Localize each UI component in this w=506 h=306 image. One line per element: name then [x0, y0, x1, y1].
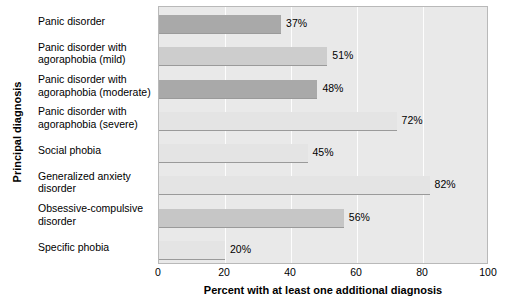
- bar-baseline-edge: [159, 98, 317, 99]
- x-axis-title: Percent with at least one additional dia…: [158, 284, 488, 296]
- bar-value-label: 82%: [435, 178, 456, 190]
- plot-area: 37%51%48%72%45%82%56%20%: [158, 6, 488, 264]
- x-axis-tick-labels: 020406080100: [158, 266, 488, 282]
- bar-baseline-edge: [159, 259, 225, 260]
- bar-value-label: 56%: [349, 211, 370, 223]
- bar-baseline-edge: [159, 33, 281, 34]
- category-label-line: agoraphobia (severe): [38, 118, 156, 131]
- bar: [159, 209, 344, 227]
- category-label-line: disorder: [38, 182, 156, 195]
- bar: [159, 15, 281, 33]
- category-label-line: Generalized anxiety: [38, 170, 156, 183]
- bar-value-label: 45%: [313, 146, 334, 158]
- bar: [159, 144, 308, 162]
- x-tick-label: 20: [218, 266, 230, 278]
- bar: [159, 80, 317, 98]
- category-label: Generalized anxietydisorder: [38, 170, 156, 195]
- x-tick-label: 0: [155, 266, 161, 278]
- bar-baseline-edge: [159, 65, 327, 66]
- category-label: Obsessive-compulsivedisorder: [38, 202, 156, 227]
- category-label: Panic disorder: [38, 15, 156, 28]
- bar-baseline-edge: [159, 162, 308, 163]
- x-tick-label: 40: [284, 266, 296, 278]
- category-label-line: disorder: [38, 215, 156, 228]
- y-axis-title: Principal diagnosis: [0, 0, 34, 264]
- category-label-line: Obsessive-compulsive: [38, 202, 156, 215]
- category-label-line: agoraphobia (mild): [38, 53, 156, 66]
- category-label-line: Specific phobia: [38, 241, 156, 254]
- category-label: Panic disorder withagoraphobia (severe): [38, 105, 156, 130]
- bar-baseline-edge: [159, 227, 344, 228]
- bar: [159, 47, 327, 65]
- bar-value-label: 51%: [332, 49, 353, 61]
- bar-baseline-edge: [159, 130, 397, 131]
- bar: [159, 176, 430, 194]
- gridline: [423, 7, 424, 263]
- x-tick-label: 80: [416, 266, 428, 278]
- category-label: Social phobia: [38, 144, 156, 157]
- bar: [159, 112, 397, 130]
- bar-chart-figure: Principal diagnosis Panic disorderPanic …: [0, 0, 506, 306]
- category-label-line: Panic disorder: [38, 15, 156, 28]
- category-label: Panic disorder withagoraphobia (moderate…: [38, 73, 156, 98]
- category-label-column: Panic disorderPanic disorder withagoraph…: [38, 6, 156, 264]
- bar-value-label: 72%: [402, 114, 423, 126]
- category-label: Panic disorder withagoraphobia (mild): [38, 41, 156, 66]
- bar-value-label: 48%: [322, 82, 343, 94]
- category-label-line: Panic disorder with: [38, 41, 156, 54]
- category-label-line: agoraphobia (moderate): [38, 86, 156, 99]
- category-label: Specific phobia: [38, 241, 156, 254]
- gridline: [357, 7, 358, 263]
- bar-value-label: 20%: [230, 243, 251, 255]
- x-tick-label: 100: [479, 266, 497, 278]
- bar-value-label: 37%: [286, 17, 307, 29]
- bar-baseline-edge: [159, 194, 430, 195]
- x-tick-label: 60: [350, 266, 362, 278]
- y-axis-title-text: Principal diagnosis: [11, 82, 23, 183]
- category-label-line: Panic disorder with: [38, 73, 156, 86]
- category-label-line: Panic disorder with: [38, 105, 156, 118]
- bar: [159, 241, 225, 259]
- category-label-line: Social phobia: [38, 144, 156, 157]
